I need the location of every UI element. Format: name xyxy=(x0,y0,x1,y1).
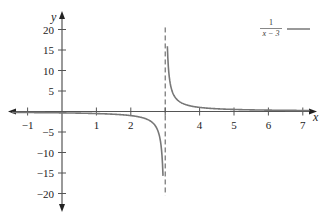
curve-left-branch xyxy=(12,112,163,175)
curve-right-branch xyxy=(167,46,309,110)
y-tick-label: −20 xyxy=(37,188,55,200)
y-tick-label: 20 xyxy=(43,24,55,36)
x-tick-label: 7 xyxy=(300,119,306,131)
y-tick-label: 5 xyxy=(49,85,55,97)
y-tick-label: 15 xyxy=(43,44,55,56)
y-tick-label: −10 xyxy=(37,147,55,159)
x-tick-label: −1 xyxy=(22,119,34,131)
y-axis-up-arrow-icon xyxy=(59,11,65,19)
legend: 1 x − 3 xyxy=(260,18,310,38)
x-tick-label: 1 xyxy=(94,119,100,131)
x-tick-labels: −1124567 xyxy=(22,119,306,131)
y-axis-label: y xyxy=(50,10,57,24)
y-tick-label: −5 xyxy=(42,126,54,138)
x-tick-label: 5 xyxy=(231,119,237,131)
legend-numerator: 1 xyxy=(269,18,273,27)
x-tick-label: 2 xyxy=(128,119,134,131)
x-tick-label: 6 xyxy=(266,119,272,131)
y-axis-down-arrow-icon xyxy=(59,204,65,212)
y-tick-label: −15 xyxy=(37,167,55,179)
axes xyxy=(8,11,317,212)
x-axis-left-arrow-icon xyxy=(8,109,16,115)
legend-denominator: x − 3 xyxy=(262,29,280,38)
y-tick-label: 10 xyxy=(43,65,55,77)
x-axis-label: x xyxy=(312,110,319,124)
x-tick-label: 4 xyxy=(197,119,203,131)
chart-canvas: −1124567 2015105−5−10−15−20 x y 1 x − 3 xyxy=(0,0,325,222)
